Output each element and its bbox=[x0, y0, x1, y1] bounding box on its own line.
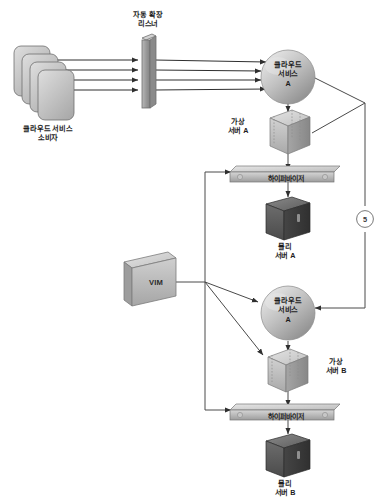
diagram-graphics bbox=[0, 0, 384, 501]
virtual-server-cube-icon-a bbox=[270, 110, 310, 154]
virtual-server-cube-icon-b bbox=[268, 349, 308, 392]
virtual-server-b-label: 가상 서버 B bbox=[312, 357, 360, 376]
scaling-listener-bar-icon bbox=[142, 34, 156, 108]
cloud-service-a-bottom-label: 클라우드 서비스 A bbox=[261, 296, 315, 324]
physical-server-icon-a bbox=[266, 197, 310, 240]
vim-connectors bbox=[176, 172, 263, 410]
step-marker-5-label: 5 bbox=[357, 215, 373, 224]
physical-server-a-label: 물리 서버 A bbox=[258, 242, 312, 261]
diagram-canvas: 자동 확장 리스너 클라우드 서비스 소비자 클라우드 서비스 A 가상 서버 … bbox=[0, 0, 384, 501]
hypervisor-a-label: 하이퍼바이저 bbox=[258, 173, 314, 183]
stacked-consumer-icon bbox=[14, 46, 74, 120]
listener-to-cloud-service-arrows bbox=[155, 60, 266, 90]
cloud-service-a-top-label: 클라우드 서비스 A bbox=[261, 60, 315, 88]
listener-label: 자동 확장 리스너 bbox=[112, 10, 184, 29]
vim-label: VIM bbox=[141, 278, 171, 287]
physical-server-b-label: 물리 서버 B bbox=[258, 479, 312, 498]
consumer-label: 클라우드 서비스 소비자 bbox=[0, 124, 96, 143]
right-feedback-route bbox=[312, 77, 365, 308]
physical-server-icon-b bbox=[266, 434, 310, 477]
hypervisor-b-label: 하이퍼바이저 bbox=[258, 411, 314, 421]
virtual-server-a-label: 가상 서버 A bbox=[214, 117, 262, 136]
